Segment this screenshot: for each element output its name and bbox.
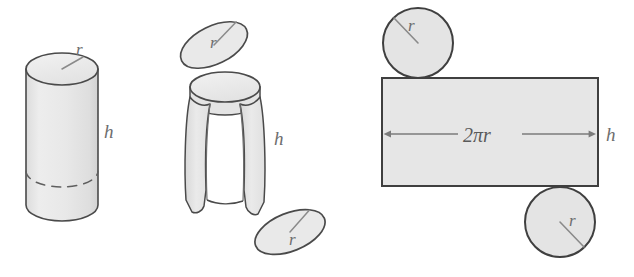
flap-bottom-gap-arc	[207, 200, 243, 204]
exploded-top-opening	[190, 72, 260, 102]
label-radius-top: r	[210, 33, 217, 52]
panel-exploded-cylinder: r r h	[173, 12, 331, 263]
label-height: h	[104, 121, 114, 142]
cylinder-lateral-surface	[26, 69, 98, 221]
label-height-exploded: h	[274, 128, 284, 149]
label-height-net: h	[606, 124, 616, 145]
label-radius: r	[76, 40, 83, 59]
cylinder-surface-area-figure: r h r	[0, 0, 634, 277]
panel-closed-cylinder: r h	[26, 40, 114, 221]
label-radius-net-bottom: r	[569, 211, 576, 230]
label-radius-bottom: r	[289, 230, 296, 249]
label-radius-net-top: r	[408, 16, 415, 35]
figure-canvas: r h r	[0, 0, 634, 277]
panel-flattened-net: r 2πr h r	[382, 8, 616, 257]
label-circumference: 2πr	[463, 124, 491, 146]
